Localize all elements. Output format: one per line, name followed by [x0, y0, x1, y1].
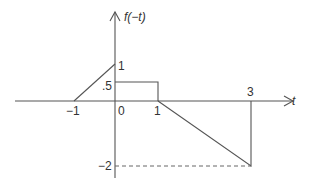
x-tick-0: 0 [118, 104, 125, 118]
pulse-segment [115, 82, 158, 101]
x-tick-3: 3 [247, 85, 254, 99]
y-tick-neg2: −2 [98, 159, 112, 173]
y-tick-half: .5 [102, 79, 112, 93]
ramp-down-segment [158, 101, 251, 166]
x-tick-1: 1 [154, 104, 161, 118]
y-axis-label: f(−t) [124, 10, 146, 24]
y-tick-1: 1 [118, 59, 125, 73]
x-axis-label: t [292, 94, 296, 108]
signal-plot: f(−t) t −1 0 1 3 1 .5 −2 [0, 0, 311, 187]
x-tick-neg1: −1 [66, 104, 80, 118]
